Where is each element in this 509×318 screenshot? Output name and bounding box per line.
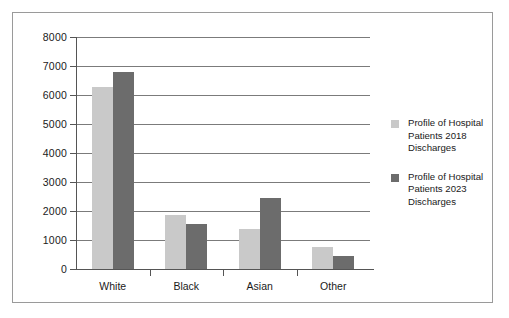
bar-chart-figure: 010002000300040005000600070008000 WhiteB… (0, 0, 509, 318)
x-axis-label-white: White (99, 280, 126, 292)
legend-item-2023: Profile of Hospital Patients 2023 Discha… (391, 171, 503, 209)
legend-label-2023-line3: Discharges (408, 196, 503, 209)
y-axis-line (76, 37, 77, 270)
chart-frame: 010002000300040005000600070008000 WhiteB… (12, 12, 493, 303)
bar-asian-series2 (260, 198, 281, 269)
legend-label-2018-line1: Profile of Hospital (408, 117, 503, 130)
y-axis-tick-label: 8000 (43, 31, 67, 43)
x-axis-label-other: Other (320, 280, 346, 292)
y-tick-mark (70, 66, 76, 67)
y-tick-mark (70, 153, 76, 154)
x-axis-line (76, 269, 374, 270)
y-axis-tick-label: 7000 (43, 60, 67, 72)
y-tick-mark (70, 182, 76, 183)
x-axis-label-asian: Asian (247, 280, 273, 292)
gridline (76, 37, 370, 38)
x-axis-label-black: Black (173, 280, 199, 292)
legend-swatch-2023-icon (391, 174, 399, 182)
y-tick-mark (70, 240, 76, 241)
x-tick-mark (223, 270, 224, 276)
bar-white-series2 (113, 72, 134, 269)
legend-label-2018-line2: Patients 2018 (408, 130, 503, 143)
plot-area: 010002000300040005000600070008000 WhiteB… (76, 37, 370, 269)
bar-other-series1 (312, 247, 333, 269)
chart-legend: Profile of Hospital Patients 2018 Discha… (391, 117, 503, 225)
bar-other-series2 (333, 256, 354, 269)
y-tick-mark (70, 211, 76, 212)
y-tick-mark (70, 124, 76, 125)
legend-label-2018-line3: Discharges (408, 142, 503, 155)
y-axis-tick-label: 0 (61, 263, 67, 275)
y-tick-mark (70, 95, 76, 96)
y-axis-tick-label: 2000 (43, 205, 67, 217)
legend-label-2023-line2: Patients 2023 (408, 183, 503, 196)
x-tick-mark (150, 270, 151, 276)
y-axis-tick-label: 1000 (43, 234, 67, 246)
bar-asian-series1 (239, 229, 260, 269)
x-tick-mark (297, 270, 298, 276)
y-tick-mark (70, 37, 76, 38)
gridline (76, 66, 370, 67)
bar-white-series1 (92, 87, 113, 269)
y-tick-mark (70, 269, 76, 270)
y-axis-tick-label: 3000 (43, 176, 67, 188)
y-axis-tick-label: 5000 (43, 118, 67, 130)
y-axis-tick-label: 4000 (43, 147, 67, 159)
y-axis-tick-label: 6000 (43, 89, 67, 101)
bar-black-series2 (186, 224, 207, 269)
legend-swatch-2018-icon (391, 120, 399, 128)
bar-black-series1 (165, 215, 186, 269)
legend-item-2018: Profile of Hospital Patients 2018 Discha… (391, 117, 503, 155)
legend-label-2023-line1: Profile of Hospital (408, 171, 503, 184)
